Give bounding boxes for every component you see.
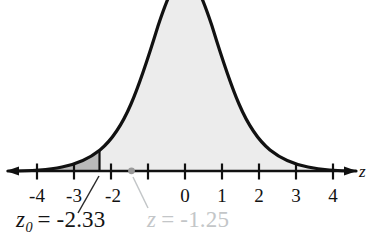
tick-label-2: 2 [254,186,264,205]
critical-value-subscript: 0 [25,219,32,235]
normal-curve-figure: -4 -3 -2 0 1 2 3 4 z z0= -2.33 z= -1.25 [0,0,370,238]
test-statistic-dot [128,167,135,174]
tick-label--4: -4 [29,186,45,205]
tick-label--3: -3 [66,186,82,205]
test-statistic-symbol: z [147,207,156,232]
curve-body-fill [8,0,356,171]
test-statistic-value: = -1.25 [161,207,229,232]
critical-value-symbol: z [16,207,25,232]
tick-label-0: 0 [180,186,190,205]
critical-value-label: z0= -2.33 [16,208,106,231]
tick-label-3: 3 [291,186,301,205]
tick-label-4: 4 [328,186,338,205]
critical-value-value: = -2.33 [37,207,105,232]
tick-label--2: -2 [105,186,121,205]
tick-label-1: 1 [217,186,227,205]
test-statistic-label: z= -1.25 [147,208,229,231]
test-statistic-leader-line [133,177,148,208]
axis-variable-label: z [359,163,366,180]
